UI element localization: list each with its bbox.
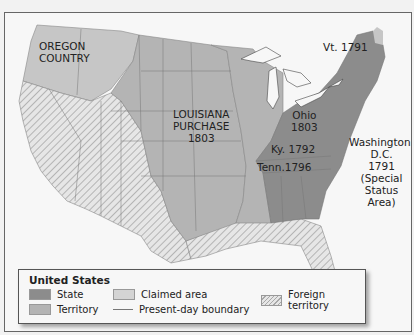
state-swatch (29, 289, 51, 300)
legend-title: United States (29, 274, 110, 286)
legend-item-boundary: Present-day boundary (113, 304, 249, 315)
label-tennessee: Tenn.1796 (257, 161, 311, 173)
label-ohio: Ohio 1803 (291, 109, 318, 133)
foreign-hatch-swatch (261, 295, 282, 306)
label-kentucky: Ky. 1792 (271, 143, 315, 155)
label-washington-dc: Washington, D.C. 1791 (Special Status Ar… (349, 136, 412, 208)
label-louisiana-purchase: LOUISIANA PURCHASE 1803 (173, 108, 230, 144)
map-legend: United States State Territory Claimed ar… (18, 269, 366, 324)
legend-item-state: State (29, 289, 83, 300)
legend-item-foreign: Foreign territory (261, 289, 365, 311)
legend-item-territory: Territory (29, 304, 98, 315)
map-frame: OREGON COUNTRY LOUISIANA PURCHASE 1803 O… (4, 12, 412, 332)
claimed-swatch (113, 289, 135, 300)
territory-swatch (29, 304, 51, 315)
boundary-line-swatch (113, 309, 133, 310)
legend-item-claimed: Claimed area (113, 289, 207, 300)
label-vermont: Vt. 1791 (323, 41, 368, 53)
label-oregon-country: OREGON COUNTRY (39, 40, 90, 64)
